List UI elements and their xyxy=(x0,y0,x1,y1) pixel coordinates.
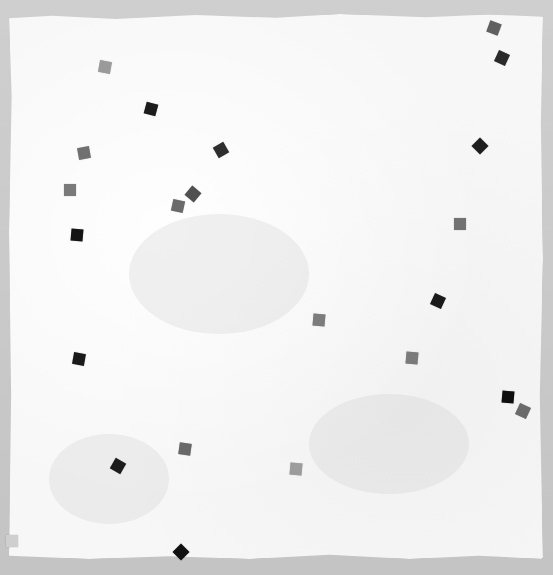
paper-texture xyxy=(129,214,309,334)
paper-texture xyxy=(49,434,169,524)
confetti-square xyxy=(6,535,18,547)
confetti-square xyxy=(178,442,192,456)
confetti-square xyxy=(98,60,112,74)
confetti-square xyxy=(72,352,86,366)
paper-texture xyxy=(309,394,469,494)
confetti-square xyxy=(501,390,514,403)
confetti-square xyxy=(312,313,325,326)
confetti-square xyxy=(70,228,83,241)
photo-background xyxy=(0,0,553,575)
confetti-square xyxy=(77,146,91,160)
confetti-square xyxy=(405,351,418,364)
confetti-square xyxy=(289,462,302,475)
handmade-paper-sheet xyxy=(9,14,543,559)
confetti-square xyxy=(171,199,185,213)
confetti-square xyxy=(454,218,466,230)
confetti-square xyxy=(64,184,76,196)
